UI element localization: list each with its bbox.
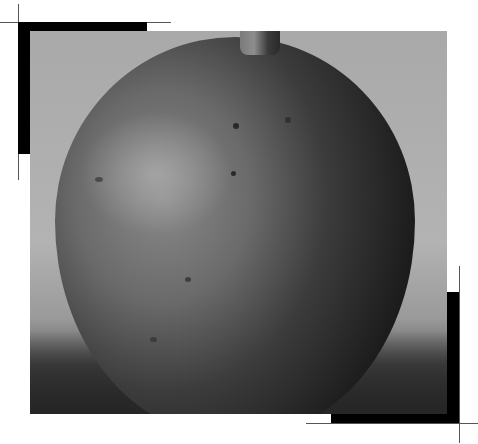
crop-line-bottom-horizontal: [306, 423, 478, 424]
frame-mark-bottom-bar: [331, 414, 459, 423]
frame-mark-right-bar: [447, 292, 459, 423]
vase-speck: [150, 337, 157, 342]
frame-mark-top-bar: [18, 22, 147, 31]
vase-speck: [95, 177, 103, 182]
frame-mark-left-bar: [18, 22, 30, 154]
vase-neck: [240, 31, 280, 55]
crop-line-right-vertical: [459, 266, 460, 443]
vase-speck: [231, 171, 236, 176]
vase-body: [55, 37, 415, 414]
vase-speck: [285, 117, 291, 123]
vase-speck: [185, 277, 191, 282]
vase-speck: [233, 123, 239, 129]
vase-photo: [30, 31, 447, 414]
